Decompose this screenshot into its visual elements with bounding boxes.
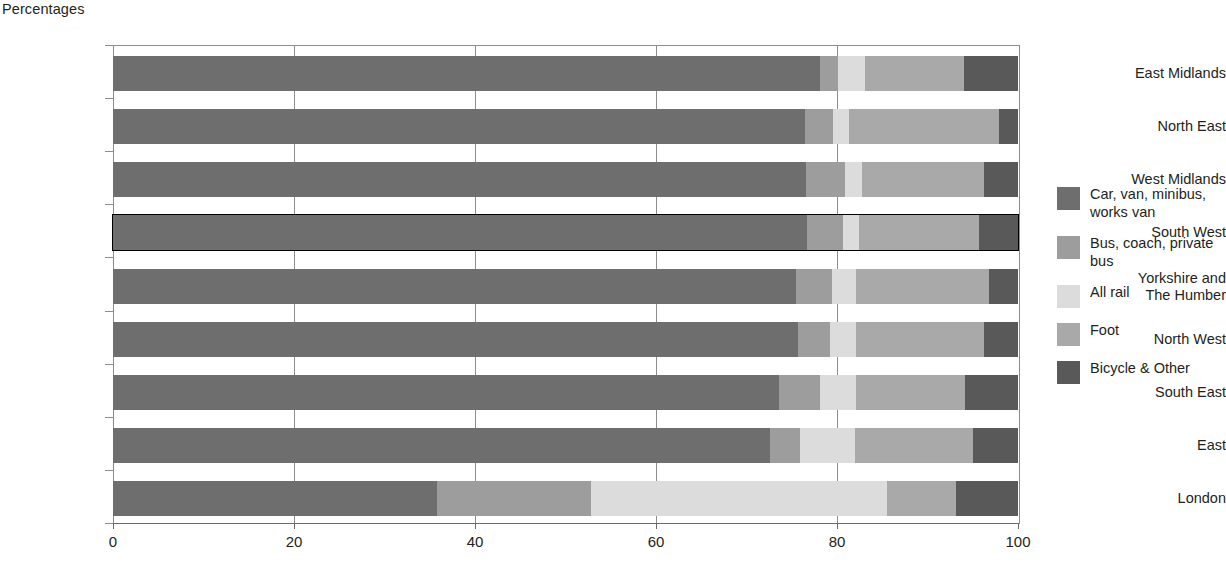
legend-item[interactable]: All rail — [1057, 284, 1225, 308]
stacked-bar — [113, 269, 1018, 304]
category-tick — [105, 204, 113, 205]
bar-row: Yorkshire and The Humber — [0, 269, 1226, 304]
bar-segment — [806, 162, 845, 197]
category-tick — [105, 523, 113, 524]
x-tick-label: 100 — [988, 533, 1048, 550]
bar-segment — [591, 481, 887, 516]
bar-row: North East — [0, 109, 1226, 144]
bar-row: South East — [0, 375, 1226, 410]
stacked-bar — [113, 322, 1018, 357]
bar-segment — [989, 269, 1018, 304]
bar-segment — [984, 322, 1018, 357]
stacked-bar — [113, 215, 1018, 250]
bar-segment — [999, 109, 1018, 144]
legend-swatch-icon — [1057, 361, 1080, 384]
bar-segment — [830, 322, 856, 357]
bar-segment — [113, 215, 807, 250]
bar-segment — [807, 215, 843, 250]
stacked-bar — [113, 56, 1018, 91]
bar-segment — [956, 481, 1018, 516]
stacked-bar — [113, 375, 1018, 410]
bar-segment — [843, 215, 858, 250]
bar-segment — [838, 56, 865, 91]
bar-row: South West — [0, 215, 1226, 250]
legend-label: All rail — [1090, 284, 1129, 302]
bar-segment — [113, 481, 437, 516]
bar-segment — [964, 56, 1018, 91]
category-tick — [105, 257, 113, 258]
bar-segment — [856, 322, 984, 357]
legend: Car, van, minibus, works vanBus, coach, … — [1057, 186, 1225, 398]
legend-item[interactable]: Bicycle & Other — [1057, 360, 1225, 384]
bar-segment — [965, 375, 1017, 410]
bar-segment — [887, 481, 957, 516]
bar-segment — [113, 162, 806, 197]
x-tick — [1018, 523, 1019, 529]
stacked-bar-chart: Percentages 020406080100 East MidlandsNo… — [0, 0, 1226, 570]
bar-segment — [859, 215, 979, 250]
category-tick — [105, 151, 113, 152]
bar-row: East — [0, 428, 1226, 463]
x-tick — [294, 523, 295, 529]
legend-swatch-icon — [1057, 187, 1080, 210]
bar-segment — [798, 322, 830, 357]
category-label: East Midlands — [1120, 65, 1226, 82]
bar-segment — [820, 56, 838, 91]
bar-segment — [973, 428, 1018, 463]
category-tick — [105, 364, 113, 365]
bar-segment — [113, 428, 770, 463]
category-tick — [105, 98, 113, 99]
x-axis-line — [113, 523, 1019, 524]
bar-segment — [856, 375, 966, 410]
bar-segment — [113, 375, 779, 410]
bar-segment — [113, 322, 798, 357]
bar-segment — [833, 109, 848, 144]
category-label: East — [1120, 437, 1226, 454]
legend-label: Foot — [1090, 322, 1119, 340]
x-tick-label: 0 — [83, 533, 143, 550]
bar-segment — [796, 269, 832, 304]
bar-segment — [856, 269, 989, 304]
stacked-bar — [113, 162, 1018, 197]
legend-item[interactable]: Car, van, minibus, works van — [1057, 186, 1225, 221]
legend-swatch-icon — [1057, 323, 1080, 346]
x-tick — [113, 523, 114, 529]
bar-segment — [984, 162, 1017, 197]
bar-segment — [113, 109, 805, 144]
x-tick-label: 60 — [626, 533, 686, 550]
x-tick — [475, 523, 476, 529]
x-tick — [837, 523, 838, 529]
category-label: London — [1120, 490, 1226, 507]
legend-item[interactable]: Foot — [1057, 322, 1225, 346]
bar-segment — [862, 162, 984, 197]
bar-segment — [855, 428, 973, 463]
bar-segment — [779, 375, 820, 410]
legend-label: Bicycle & Other — [1090, 360, 1190, 378]
bar-segment — [437, 481, 591, 516]
category-tick — [105, 45, 113, 46]
stacked-bar — [113, 109, 1018, 144]
category-tick — [105, 417, 113, 418]
legend-swatch-icon — [1057, 236, 1080, 259]
x-tick-label: 20 — [264, 533, 324, 550]
bar-segment — [805, 109, 833, 144]
x-tick-label: 40 — [445, 533, 505, 550]
x-tick — [656, 523, 657, 529]
bar-row: East Midlands — [0, 56, 1226, 91]
chart-axis-title: Percentages — [2, 1, 85, 17]
bar-segment — [849, 109, 999, 144]
bar-segment — [979, 215, 1018, 250]
legend-swatch-icon — [1057, 285, 1080, 308]
category-label: North East — [1120, 118, 1226, 135]
bar-segment — [800, 428, 855, 463]
legend-item[interactable]: Bus, coach, private bus — [1057, 235, 1225, 270]
bar-row: West Midlands — [0, 162, 1226, 197]
category-tick — [105, 470, 113, 471]
x-tick-label: 80 — [807, 533, 867, 550]
bar-segment — [845, 162, 862, 197]
legend-label: Car, van, minibus, works van — [1090, 186, 1225, 221]
bar-segment — [832, 269, 856, 304]
stacked-bar — [113, 481, 1018, 516]
bar-segment — [113, 56, 820, 91]
category-tick — [105, 311, 113, 312]
